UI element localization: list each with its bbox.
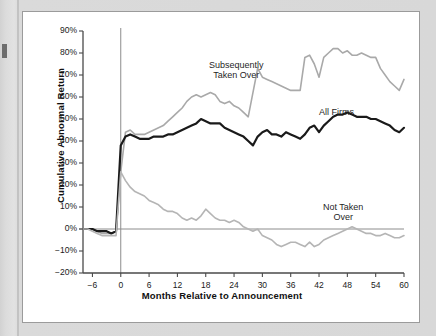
y-tick-label: 80% [27,47,77,57]
page-edge-rule [17,0,19,336]
y-tick-label: 0% [27,223,77,233]
annotation-line: All Firms [319,107,354,117]
y-tick-label: 90% [27,25,77,35]
series-annotation-all-firms: All Firms [319,107,354,117]
y-tick-label: 70% [27,69,77,79]
y-tick-label: −20% [27,267,77,277]
annotation-line: Not Taken [323,202,363,212]
cumulative-abnormal-return-chart [23,12,421,324]
series-annotation-subsequently-taken-over: SubsequentlyTaken Over [209,60,264,80]
annotation-line: Taken Over [209,70,264,80]
y-tick-label: 40% [27,135,77,145]
y-tick-label: −10% [27,245,77,255]
y-tick-label: 20% [27,179,77,189]
y-tick-label: 30% [27,157,77,167]
x-tick-label: 60 [386,280,422,290]
page-edge-mark [2,44,7,58]
y-tick-label: 10% [27,201,77,211]
annotation-line: Subsequently [209,60,264,70]
chart-panel: Cumulative Abnormal Return Months Relati… [22,11,420,323]
figure-background: Cumulative Abnormal Return Months Relati… [0,0,436,336]
x-axis-title: Months Relative to Announcement [23,290,421,301]
series-annotation-not-taken-over: Not TakenOver [323,202,363,222]
annotation-line: Over [323,212,363,222]
y-tick-label: 60% [27,91,77,101]
plot-area: Cumulative Abnormal Return Months Relati… [23,12,419,322]
y-tick-label: 50% [27,113,77,123]
